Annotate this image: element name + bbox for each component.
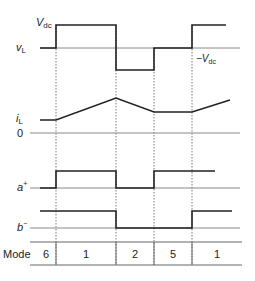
mode-cell-1: 6 <box>43 248 49 260</box>
iL-trace: iL 0 <box>16 98 240 139</box>
transition-guides <box>56 25 192 265</box>
mode-cell-4: 5 <box>170 248 176 260</box>
b-minus-label: b− <box>17 220 27 233</box>
vdc-label: Vdc <box>36 16 52 30</box>
iL-label: iL <box>16 112 23 126</box>
a-plus-label: a+ <box>17 180 27 193</box>
switching-waveform-diagram: Vdc vL −Vdc iL 0 a+ b− Mode 6 1 2 5 1 <box>0 0 255 281</box>
zero-label: 0 <box>17 127 23 139</box>
iL-waveform <box>40 98 230 120</box>
mode-header: Mode <box>3 248 31 260</box>
mode-cell-2: 1 <box>83 248 89 260</box>
mode-cell-5: 1 <box>214 248 220 260</box>
neg-vdc-label: −Vdc <box>196 53 216 65</box>
vL-trace: Vdc vL −Vdc <box>16 16 240 70</box>
mode-cell-3: 2 <box>132 248 138 260</box>
a-plus-trace: a+ <box>17 171 240 193</box>
vL-label: vL <box>16 41 27 55</box>
b-minus-trace: b− <box>17 211 240 233</box>
b-minus-waveform <box>40 211 232 228</box>
a-plus-waveform <box>40 171 215 188</box>
mode-table: Mode 6 1 2 5 1 <box>3 242 242 265</box>
